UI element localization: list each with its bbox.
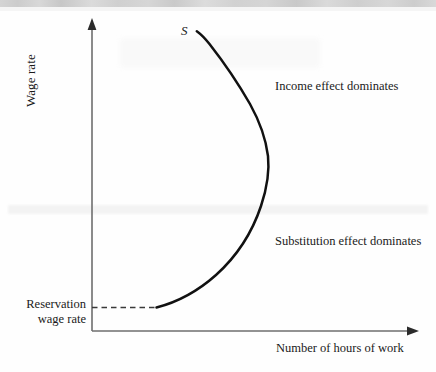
substitution-effect-annotation: Substitution effect dominates [275, 234, 421, 249]
y-axis-label: Wage rate [23, 26, 38, 136]
x-axis-arrowhead-icon [407, 327, 419, 336]
reservation-wage-line-1: Reservation [26, 297, 86, 311]
figure-container: Wage rate S Income effect dominates Subs… [0, 0, 436, 372]
reservation-wage-rate-label: Reservationwage rate [0, 297, 86, 327]
income-effect-annotation: Income effect dominates [275, 79, 398, 94]
reservation-wage-line-2: wage rate [38, 312, 86, 326]
y-axis-arrowhead-icon [88, 18, 97, 30]
x-axis-label: Number of hours of work [276, 341, 404, 356]
curve-label-s: S [181, 23, 188, 38]
labor-supply-curve [157, 31, 269, 307]
